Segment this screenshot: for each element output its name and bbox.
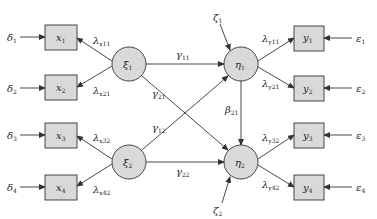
- gamma12-label: γ12: [152, 122, 166, 134]
- arrow-zeta2: [222, 177, 230, 203]
- lambda-x42-label: λx42: [92, 184, 111, 196]
- delta1-label: δ1: [7, 32, 17, 44]
- lambda-y11-label: λy11: [261, 33, 279, 46]
- zeta2-label: ζ2: [213, 205, 222, 217]
- beta21-label: β21: [224, 104, 238, 116]
- gamma11-label: γ11: [176, 49, 190, 61]
- delta3-label: δ3: [7, 130, 17, 142]
- arrow-zeta1: [220, 24, 230, 50]
- delta4-label: δ4: [7, 182, 17, 194]
- sem-path-diagram: δ1 δ2 δ3 δ4 x1 x2 x3 x4 λx11 λx21 λx32 λ…: [0, 0, 377, 219]
- epsilon2-label: ε2: [356, 83, 365, 95]
- epsilon4-label: ε4: [356, 182, 365, 194]
- lambda-y32-label: λy32: [261, 132, 280, 145]
- delta2-label: δ2: [7, 83, 17, 95]
- lambda-y21-label: λy21: [261, 78, 279, 91]
- lambda-x11-label: λx11: [92, 35, 110, 47]
- zeta1-label: ζ1: [213, 12, 222, 24]
- gamma21-label: γ21: [152, 88, 166, 100]
- lambda-x21-label: λx21: [92, 85, 110, 97]
- lambda-x32-label: λx32: [92, 132, 111, 144]
- arrow-xi2-x4: [77, 164, 112, 186]
- lambda-y42-label: λy42: [261, 179, 280, 192]
- epsilon1-label: ε1: [356, 33, 365, 45]
- gamma22-label: γ22: [176, 166, 190, 178]
- epsilon3-label: ε3: [356, 130, 365, 142]
- arrow-xi1-x2: [77, 66, 112, 87]
